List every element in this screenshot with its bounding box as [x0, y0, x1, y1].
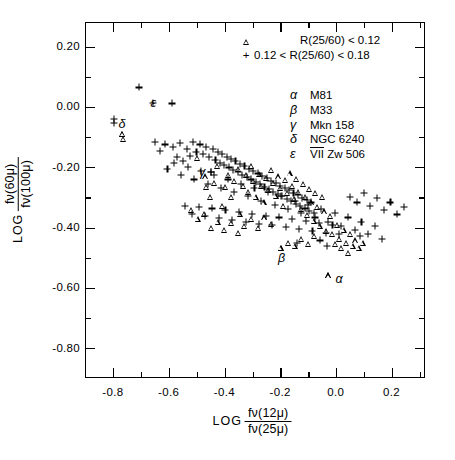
data-point-plus	[202, 143, 209, 150]
data-point-plus	[284, 206, 291, 213]
axis-tick	[419, 318, 424, 319]
figure-canvas: -0.8-0.6-0.4-0.20.00.2 0.200.00-0.20-0.4…	[0, 0, 455, 460]
data-point-plus	[365, 231, 372, 238]
data-point-plus	[371, 222, 378, 229]
data-point-plus	[229, 216, 236, 223]
data-point-plus	[136, 84, 143, 91]
axis-tick	[86, 107, 95, 108]
plus-icon: +	[238, 48, 254, 63]
axis-tick	[86, 47, 95, 48]
object-legend-greek: ε	[290, 147, 310, 162]
axis-tick	[415, 47, 424, 48]
object-legend-row: αM81	[290, 88, 365, 103]
y-axis-tick-label: -0.60	[30, 281, 80, 293]
data-point-triangle	[300, 181, 306, 187]
data-point-plus	[296, 225, 303, 232]
object-legend-name: NGC 6240	[310, 132, 364, 147]
data-point-triangle	[287, 170, 293, 176]
axis-tick	[364, 372, 365, 377]
x-axis-tick-label: -0.6	[158, 386, 179, 398]
axis-tick	[308, 372, 309, 377]
axis-tick	[392, 23, 393, 32]
data-point-plus	[367, 203, 374, 210]
symbol-legend: R(25/60) < 0.12+0.12 < R(25/60) < 0.18	[238, 33, 380, 62]
y-axis-tick-label: -0.80	[30, 342, 80, 354]
object-legend-row: βM33	[290, 103, 365, 118]
y-axis-numerator: fν(60μ)	[3, 157, 19, 211]
data-point-triangle	[207, 194, 213, 200]
data-point-plus	[282, 224, 289, 231]
y-axis-title: LOGfν(60μ)fν(100μ)	[3, 157, 34, 243]
axis-tick	[86, 167, 95, 168]
data-point-plus	[262, 212, 269, 219]
data-point-plus	[400, 203, 407, 210]
data-point-triangle	[305, 241, 311, 247]
object-legend-row: δNGC 6240	[290, 132, 365, 147]
y-axis-tick-label: -0.40	[30, 221, 80, 233]
data-point-plus	[202, 213, 209, 220]
data-point-plus	[164, 166, 171, 173]
data-point-plus	[222, 207, 229, 214]
data-point-label-undefined: δ	[119, 117, 126, 131]
triangle-icon	[238, 33, 254, 48]
x-axis-tick-label: -0.2	[270, 386, 291, 398]
y-axis-ratio: fν(60μ)fν(100μ)	[3, 157, 34, 211]
data-point-plus	[318, 206, 325, 213]
axis-tick	[419, 77, 424, 78]
data-point-triangle	[356, 245, 362, 251]
axis-tick	[280, 23, 281, 32]
data-point-triangle	[208, 225, 214, 231]
axis-tick	[415, 348, 424, 349]
data-point-plus	[304, 201, 311, 208]
data-point-triangle	[319, 194, 325, 200]
data-point-triangle	[119, 131, 125, 137]
data-point-triangle	[211, 180, 217, 186]
axis-tick	[169, 368, 170, 377]
axis-tick	[86, 77, 91, 78]
data-point-triangle	[306, 186, 312, 192]
axis-tick	[225, 23, 226, 32]
symbol-legend-row: +0.12 < R(25/60) < 0.18	[238, 48, 380, 63]
object-legend-name: Mkn 158	[310, 118, 354, 133]
axis-tick	[86, 288, 95, 289]
data-point-plus	[169, 143, 176, 150]
x-axis-title: LOGfν(12μ)fν(25μ)	[213, 406, 292, 437]
data-point-triangle	[268, 167, 274, 173]
object-legend-name: VII Zw 506	[310, 147, 365, 162]
data-point-plus	[374, 195, 381, 202]
axis-tick	[364, 23, 365, 28]
axis-tick	[86, 228, 95, 229]
x-axis-numerator: fν(12μ)	[245, 406, 292, 422]
data-point-plus	[331, 210, 338, 217]
data-point-plus	[336, 231, 343, 238]
data-point-plus	[264, 189, 271, 196]
data-point-plus	[357, 232, 364, 239]
axis-tick	[86, 318, 91, 319]
data-point-plus	[186, 152, 193, 159]
y-axis-tick-label: -0.20	[30, 161, 80, 173]
y-axis-denominator: fν(100μ)	[19, 157, 34, 211]
data-point-label-undefined: α	[335, 272, 342, 286]
data-point-plus	[309, 227, 316, 234]
data-point-triangle	[293, 176, 299, 182]
object-legend: αM81βM33γMkn 158δNGC 6240εVII Zw 506	[290, 88, 365, 162]
data-point-plus	[329, 221, 336, 228]
data-point-plus	[338, 222, 345, 229]
data-point-plus	[298, 210, 305, 217]
object-legend-greek: δ	[290, 132, 310, 147]
data-point-plus	[231, 189, 238, 196]
y-axis-tick-label: 0.20	[30, 40, 80, 52]
data-point-plus	[345, 214, 352, 221]
data-point-plus	[156, 148, 163, 155]
axis-tick	[141, 372, 142, 377]
axis-tick	[336, 23, 337, 32]
data-point-label-undefined: β	[278, 251, 285, 265]
object-legend-name: M81	[310, 88, 332, 103]
data-point-plus	[289, 216, 296, 223]
data-point-plus	[195, 203, 202, 210]
object-legend-greek: β	[290, 103, 310, 118]
data-point-triangle	[329, 231, 335, 237]
x-axis-log-prefix: LOG	[213, 414, 242, 428]
data-point-label-undefined: ε	[151, 96, 157, 110]
data-point-plus	[387, 199, 394, 206]
